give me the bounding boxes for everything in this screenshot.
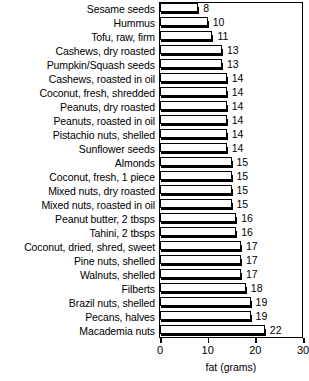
category-label: Pistachio nuts, shelled [0, 128, 157, 142]
category-label: Cashews, roasted in oil [0, 72, 157, 86]
bar [160, 87, 227, 96]
bar-value-label: 17 [246, 267, 258, 281]
bar-value-label: 13 [227, 57, 239, 71]
bar-value-label: 15 [237, 183, 249, 197]
bar [160, 157, 232, 166]
bar [160, 199, 232, 208]
category-label: Hummus [0, 16, 157, 30]
category-label: Peanut butter, 2 tbsps [0, 212, 157, 226]
category-label: Peanuts, roasted in oil [0, 114, 157, 128]
bar-row: 14 [160, 72, 303, 86]
category-label: Tofu, raw, firm [0, 30, 157, 44]
bar-row: 14 [160, 114, 303, 128]
x-axis-tick-label: 0 [157, 344, 163, 357]
x-axis-tick [208, 338, 210, 343]
bar [160, 59, 222, 68]
bar-value-label: 14 [232, 113, 244, 127]
bar-row: 22 [160, 324, 303, 338]
bar [160, 241, 241, 250]
category-label: Mixed nuts, dry roasted [0, 184, 157, 198]
bar-row: 13 [160, 58, 303, 72]
bar-row: 15 [160, 170, 303, 184]
bar-row: 8 [160, 2, 303, 16]
bar-value-label: 14 [232, 141, 244, 155]
bar-value-label: 15 [237, 155, 249, 169]
bar-value-label: 16 [241, 211, 253, 225]
bar-row: 15 [160, 198, 303, 212]
bar-value-label: 14 [232, 85, 244, 99]
category-label: Cashews, dry roasted [0, 44, 157, 58]
bar [160, 31, 212, 40]
bar-value-label: 13 [227, 43, 239, 57]
bar-row: 19 [160, 296, 303, 310]
bar-row: 15 [160, 156, 303, 170]
bar [160, 101, 227, 110]
bar-value-label: 19 [256, 295, 268, 309]
bar-value-label: 17 [246, 253, 258, 267]
category-label: Macademia nuts [0, 324, 157, 338]
bar-value-label: 19 [256, 309, 268, 323]
bar [160, 311, 251, 320]
bar [160, 17, 208, 26]
bar [160, 269, 241, 278]
bar-row: 14 [160, 128, 303, 142]
category-label: Sunflower seeds [0, 142, 157, 156]
category-label: Coconut, dried, shred, sweet [0, 240, 157, 254]
bar-value-label: 16 [241, 225, 253, 239]
bar-row: 15 [160, 184, 303, 198]
bar-row: 19 [160, 310, 303, 324]
bar-value-label: 14 [232, 71, 244, 85]
fat-grams-bar-chart: Sesame seedsHummusTofu, raw, firmCashews… [0, 0, 309, 381]
bar [160, 325, 265, 334]
bar-value-label: 18 [251, 281, 263, 295]
bar [160, 255, 241, 264]
bar-value-label: 10 [213, 15, 225, 29]
bars-layer: 8101113131414141414141515151516161717171… [160, 2, 303, 338]
bar-value-label: 15 [237, 197, 249, 211]
category-label: Walnuts, shelled [0, 268, 157, 282]
bar [160, 115, 227, 124]
category-label: Tahini, 2 tbsps [0, 226, 157, 240]
category-axis-labels: Sesame seedsHummusTofu, raw, firmCashews… [0, 2, 157, 338]
x-axis-tick-label: 10 [202, 344, 214, 357]
bar-row: 16 [160, 226, 303, 240]
bar-row: 11 [160, 30, 303, 44]
bar-value-label: 8 [203, 1, 209, 15]
x-axis-tick-label: 30 [297, 344, 309, 357]
bar [160, 3, 198, 12]
x-axis-title: fat (grams) [159, 361, 303, 373]
category-label: Filberts [0, 282, 157, 296]
x-axis-tick-label: 20 [249, 344, 261, 357]
category-label: Pecans, halves [0, 310, 157, 324]
bar [160, 171, 232, 180]
x-axis-tick [255, 338, 257, 343]
category-label: Brazil nuts, shelled [0, 296, 157, 310]
bar-value-label: 14 [232, 99, 244, 113]
bar-value-label: 14 [232, 127, 244, 141]
bar-row: 17 [160, 240, 303, 254]
bar-value-label: 15 [237, 169, 249, 183]
category-label: Coconut, fresh, shredded [0, 86, 157, 100]
bar-row: 14 [160, 100, 303, 114]
category-label: Almonds [0, 156, 157, 170]
bar-row: 17 [160, 254, 303, 268]
bar-value-label: 11 [217, 29, 228, 43]
category-label: Sesame seeds [0, 2, 157, 16]
bar-row: 17 [160, 268, 303, 282]
bar [160, 227, 236, 236]
bar [160, 143, 227, 152]
bar-row: 13 [160, 44, 303, 58]
bar [160, 213, 236, 222]
x-axis-tick [303, 338, 305, 343]
bar [160, 185, 232, 194]
category-label: Pine nuts, shelled [0, 254, 157, 268]
bar-row: 16 [160, 212, 303, 226]
x-axis-tick-labels: 0102030 [0, 344, 309, 358]
bar-row: 10 [160, 16, 303, 30]
bar [160, 283, 246, 292]
bar-value-label: 17 [246, 239, 258, 253]
category-label: Mixed nuts, roasted in oil [0, 198, 157, 212]
bar-value-label: 22 [270, 323, 282, 337]
category-label: Coconut, fresh, 1 piece [0, 170, 157, 184]
bar [160, 73, 227, 82]
